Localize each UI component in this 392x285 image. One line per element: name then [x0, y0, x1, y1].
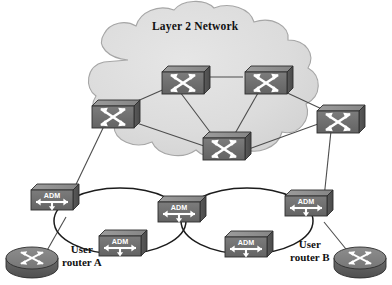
- adm-label: ADM: [112, 237, 128, 246]
- adm-node-lower-right[interactable]: ADM: [225, 231, 273, 257]
- user-router-a-label-line2: router A: [62, 256, 102, 268]
- diagram-canvas: ADM ADM ADM ADM ADM: [0, 0, 392, 285]
- adm-node-right[interactable]: ADM: [285, 190, 333, 216]
- adm-node-lower-left[interactable]: ADM: [99, 230, 147, 256]
- layer2-switch-top-right[interactable]: [245, 66, 293, 94]
- adm-node-center[interactable]: ADM: [158, 196, 206, 222]
- user-router-b-label-line2: router B: [290, 251, 330, 263]
- layer2-switch-bottom-center[interactable]: [203, 132, 251, 160]
- layer2-switch-top-left[interactable]: [162, 66, 210, 94]
- user-router-a[interactable]: [6, 247, 58, 278]
- layer2-switch-left[interactable]: [92, 100, 140, 128]
- adm-node-left[interactable]: ADM: [31, 184, 79, 210]
- layer2-switch-right[interactable]: [317, 105, 365, 133]
- user-router-b-label-line1: User: [299, 238, 321, 250]
- adm-label: ADM: [44, 191, 60, 200]
- cloud-title: Layer 2 Network: [152, 20, 238, 32]
- network-diagram: ADM ADM ADM ADM ADM: [0, 0, 392, 285]
- user-router-b-label: User router B: [290, 238, 330, 263]
- adm-label: ADM: [298, 197, 314, 206]
- link-switch-right-to-adm-right: [324, 131, 331, 198]
- user-router-a-label: User router A: [62, 243, 102, 268]
- adm-label: ADM: [238, 238, 254, 247]
- adm-label: ADM: [171, 203, 187, 212]
- user-router-b[interactable]: [334, 247, 386, 278]
- user-router-a-label-line1: User: [71, 243, 93, 255]
